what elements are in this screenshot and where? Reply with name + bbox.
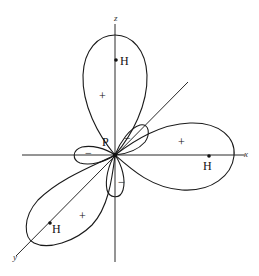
h-atom-x-label: H bbox=[203, 159, 212, 173]
h-atom-z-label: H bbox=[120, 54, 129, 68]
z-axis-label: z bbox=[113, 13, 118, 23]
h-atom-z-dot bbox=[114, 58, 118, 62]
h-atom-x-dot bbox=[207, 154, 211, 158]
x-axis-label: x bbox=[243, 149, 248, 159]
sign-z-negative: − bbox=[118, 175, 125, 189]
sign-x-negative: − bbox=[85, 146, 92, 160]
y-axis-label: y bbox=[12, 252, 17, 262]
sign-y-negative: − bbox=[124, 131, 131, 145]
lobe-x-positive bbox=[115, 123, 234, 190]
y-axis bbox=[16, 82, 188, 256]
center-atom-label: P bbox=[102, 135, 109, 149]
center-atom-dot bbox=[113, 153, 117, 157]
orbital-diagram: z x y P H H H + + + − − − bbox=[0, 0, 259, 276]
sign-z-positive: + bbox=[99, 89, 106, 103]
sign-x-positive: + bbox=[178, 135, 185, 149]
h-atom-y-label: H bbox=[52, 222, 61, 236]
sign-y-positive: + bbox=[79, 209, 86, 223]
